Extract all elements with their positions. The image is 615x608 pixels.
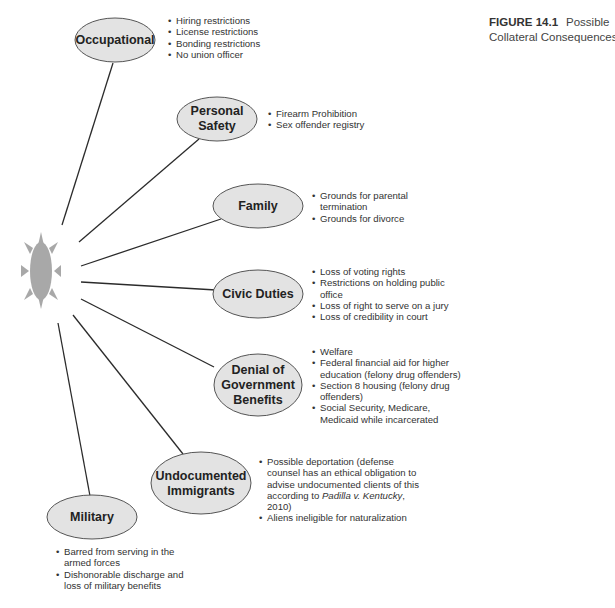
bullet-item: Dishonorable discharge and loss of milit… (56, 569, 186, 592)
bullet-item: Firearm Prohibition (268, 108, 408, 119)
sun-icon (21, 232, 61, 309)
bullet-item: Aliens ineligible for naturalization (259, 512, 429, 523)
bullet-item: Sex offender registry (268, 119, 408, 130)
figure-number: FIGURE 14.1 (489, 16, 558, 28)
bullets-occupational: Hiring restrictions License restrictions… (168, 15, 298, 60)
connector-denial-of-government-benefits (81, 299, 214, 367)
node-label-family: Family (213, 196, 303, 216)
figure-title-line2: Collateral Consequences (489, 30, 615, 45)
bullet-item: Loss of right to serve on a jury (312, 300, 452, 311)
bullet-item: No union officer (168, 49, 298, 60)
bullet-item: Grounds for divorce (312, 213, 430, 224)
bullet-item: Welfare (312, 346, 462, 357)
bullets-personal-safety: Firearm Prohibition Sex offender registr… (268, 108, 408, 131)
node-label-civic-duties: Civic Duties (213, 284, 303, 304)
bullets-family: Grounds for parental termination Grounds… (312, 190, 430, 224)
node-label-personal-safety: Personal Safety (172, 109, 262, 129)
bullets-denial-benefits: Welfare Federal financial aid for higher… (312, 346, 462, 425)
bullet-item: License restrictions (168, 26, 298, 37)
node-label-military: Military (47, 507, 137, 527)
connector-family (81, 219, 221, 266)
connector-personal-safety (79, 139, 199, 242)
bullet-item: Loss of voting rights (312, 266, 452, 277)
connector-military (58, 323, 90, 496)
connector-occupational (62, 63, 113, 225)
bullets-undocumented-immigrants: Possible deportation (defense counsel ha… (259, 456, 429, 524)
bullet-item: Hiring restrictions (168, 15, 298, 26)
connector-undocumented-immigrants (73, 315, 183, 454)
bullet-item: Possible deportation (defense counsel ha… (259, 456, 429, 512)
bullet-item: Bonding restrictions (168, 38, 298, 49)
connector-civic-duties (81, 282, 216, 290)
node-label-denial-benefits: Denial of Government Benefits (218, 362, 298, 408)
bullet-item: Barred from serving in the armed forces (56, 546, 186, 569)
bullet-item: Social Security, Medicare, Medicaid whil… (312, 402, 462, 425)
bullet-item: Loss of credibility in court (312, 311, 452, 322)
figure-caption: FIGURE 14.1Possible Collateral Consequen… (489, 15, 615, 44)
bullet-item: Federal financial aid for higher educati… (312, 357, 462, 380)
bullets-civic-duties: Loss of voting rights Restrictions on ho… (312, 266, 452, 322)
figure-title-line1: Possible (566, 16, 609, 28)
bullet-item: Restrictions on holding public office (312, 277, 452, 300)
deportation-text: Possible deportation (defense counsel ha… (267, 456, 419, 512)
bullet-item: Grounds for parental termination (312, 190, 430, 213)
bullets-military: Barred from serving in the armed forces … (56, 546, 186, 591)
node-label-undocumented-immigrants: Undocumented Immigrants (153, 468, 249, 500)
node-label-occupational: Occupational (75, 30, 155, 50)
bullet-item: Section 8 housing (felony drug offenders… (312, 380, 462, 403)
